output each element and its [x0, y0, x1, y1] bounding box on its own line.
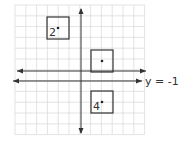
arrow-down-icon [79, 128, 84, 134]
vertex-dot [57, 27, 60, 30]
reflection-diagram: 24 y = -1 [0, 0, 185, 143]
arrow-left-icon [17, 69, 23, 74]
vertex-dot [101, 101, 104, 104]
arrow-up-icon [79, 8, 84, 14]
arrow-right-icon [136, 79, 142, 84]
reflection-line-label: y = -1 [145, 75, 179, 88]
arrow-left-icon [13, 79, 19, 84]
square-1 [91, 50, 113, 72]
vertex-dot [101, 60, 104, 63]
square-label: 4 [93, 100, 100, 113]
square-label: 2 [49, 26, 56, 39]
arrow-right-icon [140, 69, 146, 74]
grid [15, 5, 145, 135]
